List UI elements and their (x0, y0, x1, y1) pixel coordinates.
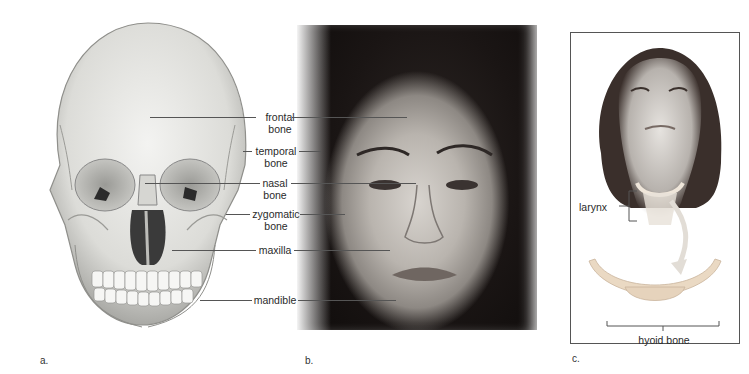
label-larynx: larynx (579, 201, 607, 213)
leader-zygomatic-skull (226, 214, 250, 215)
neck-hyoid-illustration (571, 33, 739, 343)
panel-letter-b: b. (305, 355, 313, 366)
panel-letter-c: c. (572, 353, 580, 364)
leader-frontal-skull (150, 117, 256, 118)
leader-mandible-skull (200, 300, 252, 301)
label-maxilla: maxilla (258, 244, 292, 256)
label-nasal-bone: nasal bone (260, 177, 290, 201)
leader-maxilla-skull (172, 250, 256, 251)
label-zygomatic-bone: zygomatic bone (252, 208, 300, 232)
face-photograph (297, 25, 537, 330)
panel-c-frame: larynx hyoid bone (570, 32, 740, 344)
leader-mandible-photo (298, 300, 396, 301)
face-features (297, 25, 537, 330)
leader-nasal-skull (145, 183, 260, 184)
leader-zygomatic-photo (300, 214, 345, 215)
label-mandible: mandible (253, 294, 297, 306)
panel-letter-a: a. (40, 355, 48, 366)
leader-temporal-skull (243, 151, 252, 152)
label-temporal-bone: temporal bone (252, 145, 300, 169)
leader-frontal-photo (292, 117, 407, 118)
skull-illustration (20, 15, 265, 335)
panel-a-skull (20, 15, 265, 335)
leader-temporal-photo (299, 151, 321, 152)
leader-maxilla-photo (294, 250, 390, 251)
label-frontal-bone: frontal bone (258, 111, 302, 135)
label-hyoid-bone: hyoid bone (633, 334, 695, 346)
leader-nasal-photo (291, 183, 416, 184)
